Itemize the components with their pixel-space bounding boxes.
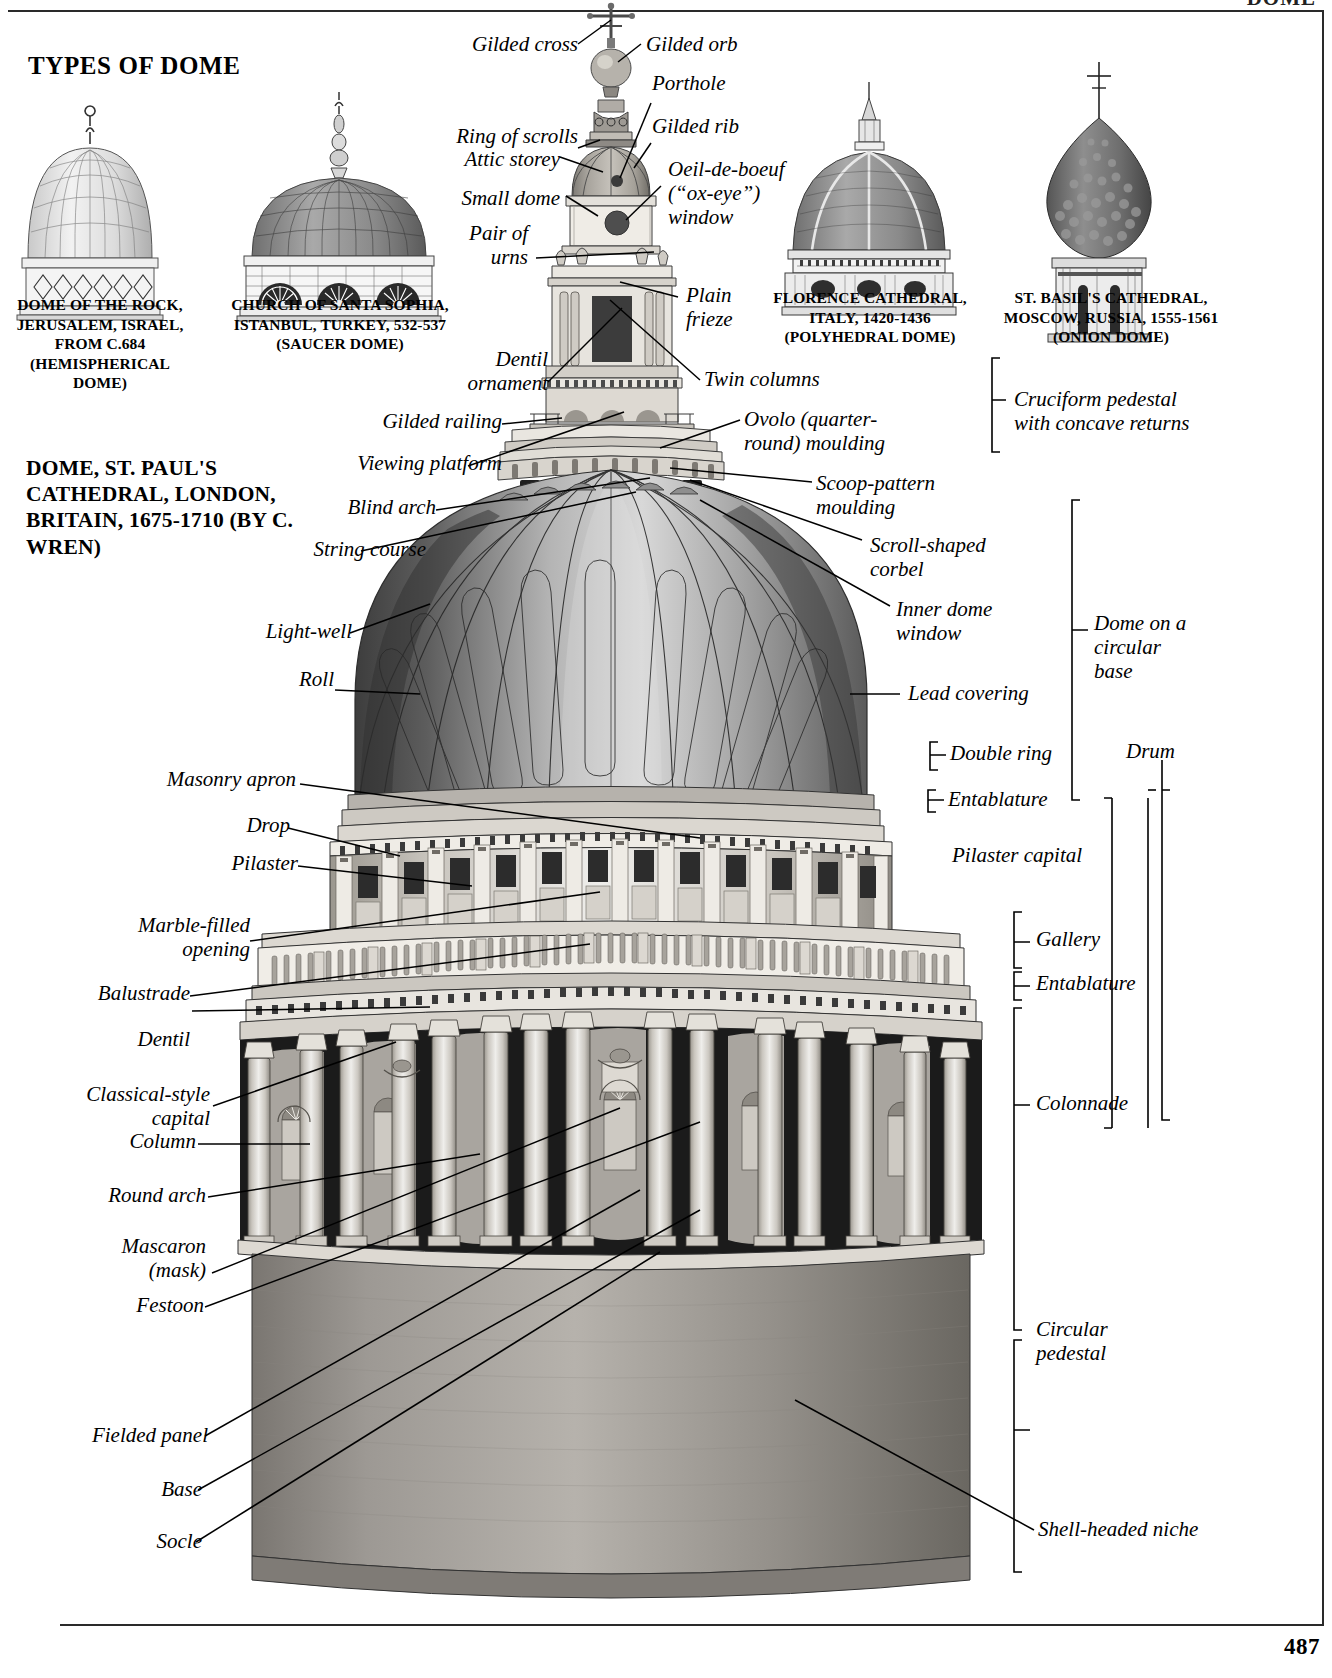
dentil-band-illu [256,987,966,1015]
viewing-platform-illu [505,425,717,452]
label-masonry-apron: Masonry apron [110,768,296,792]
marble-filled-opening-illu [356,886,840,932]
masonry-apron-illu [338,818,884,843]
ovolo-moulding-illu [500,446,722,462]
colonnade-illu [240,1012,982,1255]
caption-st-basils-cathedral: ST. BASIL'S CATHEDRAL, MOSCOW, RUSSIA, 1… [1000,288,1222,347]
lower-entablature-illu [240,987,982,1040]
drum-pilaster-storey-illu [330,839,892,938]
label-shell-headed-niche: Shell-headed niche [1038,1518,1278,1542]
page-rule-bottom [60,1624,1324,1626]
label-colonnade: Colonnade [1036,1092,1206,1116]
label-dentil-ornament: Dentil ornament [398,348,548,396]
page-rule-top [8,10,1324,12]
label-base: Base [88,1478,202,1502]
twin-columns-illu [560,292,664,366]
label-marble-filled-opening: Marble-filled opening [60,914,250,962]
socle-illu [252,1556,970,1598]
gilded-railing-illu [530,414,694,430]
upper-entablature-illu [330,832,892,856]
label-light-well: Light-well [200,620,352,644]
page-rule-right [1322,10,1324,1626]
label-roll: Roll [200,668,334,692]
caption-dome-of-the-rock: DOME OF THE ROCK, JERUSALEM, ISRAEL, FRO… [10,295,190,393]
classical-style-capital-illu [244,1012,970,1058]
label-plain-frieze: Plain frieze [686,284,796,332]
drop-ornament-illu [340,841,854,862]
column-illu [244,1012,970,1246]
gallery-balustrade-illu [252,921,970,1000]
label-gilded-orb: Gilded orb [646,33,826,57]
label-string-course: String course [226,538,426,562]
gilded-orb-illu [591,38,631,97]
festoon-illu [384,1060,642,1077]
circular-pedestal-illu [238,1240,984,1598]
label-socle: Socle [76,1530,202,1554]
round-arch-illu [278,1080,640,1122]
label-drum: Drum [1126,740,1236,764]
gilded-cross-illu [587,3,635,38]
label-pilaster-capital: Pilaster capital [952,844,1152,868]
label-viewing-platform: Viewing platform [266,452,502,476]
label-balustrade: Balustrade [60,982,190,1006]
inner-dome-window-illu [520,476,702,502]
thumbnail-dome-of-the-rock [17,106,163,320]
dentil-ornament-illu [542,378,682,422]
small-dome-illu [572,147,650,196]
main-illustration-st-pauls-dome [238,3,984,1598]
label-round-arch: Round arch [50,1184,206,1208]
label-ring-of-scrolls: Ring of scrolls [400,125,578,149]
label-fielded-panel: Fielded panel [52,1424,208,1448]
label-blind-arch: Blind arch [286,496,436,520]
porthole-illu [611,175,623,187]
fielded-panel-illu [602,1062,638,1092]
label-circular-pedestal: Circular pedestal [1036,1318,1186,1366]
caption-santa-sophia: CHURCH OF SANTA SOPHIA, ISTANBUL, TURKEY… [218,295,462,354]
label-drop: Drop [150,814,290,838]
label-twin-columns: Twin columns [704,368,894,392]
label-column: Column [70,1130,196,1154]
label-ovolo-moulding: Ovolo (quarter- round) moulding [744,408,980,456]
ring-of-scrolls-illu [586,100,636,147]
label-small-dome: Small dome [400,187,560,211]
label-mascaron: Mascaron (mask) [76,1235,206,1283]
label-gilded-rib: Gilded rib [652,115,812,139]
label-scoop-pattern-moulding: Scoop-pattern moulding [816,472,1012,520]
label-entablature-upper: Entablature [948,788,1118,812]
label-attic-storey: Attic storey [400,148,560,172]
label-gilded-cross: Gilded cross [418,33,578,57]
label-dentil: Dentil [80,1028,190,1052]
scroll-corbel-ring-illu [498,456,724,480]
leader-lines [190,20,1034,1542]
pair-of-urns-illu [556,248,668,265]
page-number: 487 [1284,1634,1320,1660]
gilded-rib-illu [573,147,649,196]
label-double-ring: Double ring [950,742,1110,766]
label-pair-of-urns: Pair of urns [400,222,528,270]
page-root: DOME TYPES OF DOME DOME, ST. PAUL'S CATH… [0,0,1332,1678]
scoop-pattern-moulding-illu [500,481,698,500]
lantern-peristyle-illu [546,266,678,378]
label-dome-on-circular-base: Dome on a circular base [1094,612,1234,684]
label-pilaster: Pilaster [150,852,298,876]
running-head: DOME [1247,0,1316,11]
oeil-de-boeuf-illu [605,211,629,235]
double-ring-illu [342,787,880,827]
section-title: TYPES OF DOME [28,52,240,80]
label-festoon: Festoon [80,1294,204,1318]
label-inner-dome-window: Inner dome window [896,598,1066,646]
attic-storey-illu [562,196,660,254]
lead-dome-illu [355,470,867,833]
label-cruciform-pedestal: Cruciform pedestal with concave returns [1014,388,1254,436]
shell-headed-niche-illu [282,1062,916,1180]
drum-windows-illu [358,850,876,898]
label-oeil-de-boeuf: Oeil-de-boeuf (“ox-eye”) window [668,158,848,230]
plain-frieze-illu [548,278,676,286]
label-scroll-shaped-corbel: Scroll-shaped corbel [870,534,1060,582]
label-entablature-lower: Entablature [1036,972,1212,996]
label-gallery: Gallery [1036,928,1176,952]
label-gilded-railing: Gilded railing [302,410,502,434]
label-porthole: Porthole [652,72,812,96]
label-classical-style-capital: Classical-style capital [52,1083,210,1131]
label-lead-covering: Lead covering [908,682,1098,706]
